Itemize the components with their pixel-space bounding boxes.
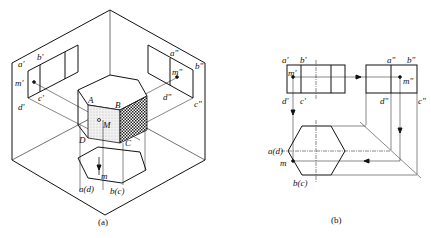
label-d-dprime: d": [380, 96, 389, 106]
caption-a: (a): [98, 217, 108, 227]
label-ad: a(d): [268, 146, 283, 156]
label-m: m: [280, 158, 287, 168]
label-M: M: [102, 120, 111, 130]
label-B: B: [115, 100, 121, 110]
label-d-dprime: d": [163, 92, 172, 102]
label-c-prime: c': [38, 93, 45, 103]
figure-b: [281, 60, 421, 182]
label-c-dprime: c": [194, 99, 202, 109]
label-c-prime: c': [300, 96, 307, 106]
label-b-prime: b': [37, 52, 45, 62]
label-A: A: [87, 95, 94, 105]
label-a-prime: a': [18, 59, 26, 69]
label-ad: a(d): [79, 184, 94, 194]
label-a-dprime: a": [170, 48, 179, 58]
label-D: D: [78, 135, 86, 145]
label-b-dprime: b": [195, 61, 204, 71]
label-m: m: [101, 171, 108, 181]
label-bc: b(c): [293, 178, 308, 188]
label-b-prime: b': [300, 55, 308, 65]
label-d-prime: d': [282, 96, 290, 106]
label-C: C: [125, 138, 132, 148]
label-a-dprime: a": [387, 55, 396, 65]
label-m-prime: m': [15, 78, 24, 88]
projection-diagram: a' b' m' c' d' a" b" m" d" c" A B M D C …: [0, 0, 431, 238]
caption-b: (b): [331, 215, 342, 225]
label-m-dprime: m": [403, 76, 413, 86]
label-d-prime: d': [18, 102, 26, 112]
figure-a: [12, 10, 205, 215]
top-view-hexagon: [288, 126, 345, 175]
v-projection-rect: [28, 45, 78, 98]
label-a-prime: a': [282, 55, 290, 65]
label-m-dprime: m": [172, 67, 182, 77]
figure-b-labels: a' b' m' d' c' a" b" m" d" c" a(d) m b(c…: [268, 55, 426, 225]
label-m-prime: m': [288, 68, 297, 78]
label-b-dprime: b": [407, 55, 416, 65]
label-c-dprime: c": [418, 96, 426, 106]
label-bc: b(c): [110, 186, 125, 196]
prism-bottom-projection: [78, 147, 146, 183]
